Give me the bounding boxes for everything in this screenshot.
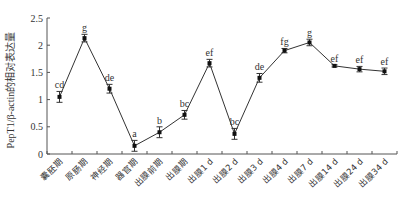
- significance-label: de: [255, 61, 265, 72]
- significance-label: ef: [331, 53, 339, 64]
- x-category-label: 原肠期: [64, 156, 90, 182]
- data-point: [183, 113, 187, 117]
- significance-label: bc: [180, 98, 190, 109]
- data-point: [283, 49, 287, 53]
- x-axis: 囊胚期原肠期神经期器官期出膜前期出膜期出膜1 d出膜2 d出膜3 d出膜4 d出…: [39, 151, 397, 190]
- significance-label: de: [105, 72, 115, 83]
- x-category-label: 出膜2 d: [211, 156, 240, 185]
- significance-label: cd: [55, 79, 64, 90]
- y-tick-label: 1: [38, 94, 43, 105]
- x-category-label: 出膜1 d: [186, 156, 215, 185]
- data-point: [308, 40, 312, 44]
- data-point: [158, 130, 162, 134]
- y-tick-label: 2: [38, 40, 43, 51]
- x-category-label: 神经期: [89, 156, 115, 182]
- significance-label: g: [307, 27, 312, 38]
- x-category-label: 出膜3 d: [236, 156, 265, 185]
- x-category-label: 囊胚期: [39, 156, 65, 182]
- y-axis-title: PepT1/β-actin的相对表达量: [4, 32, 16, 149]
- data-point: [133, 144, 137, 148]
- y-axis: 00.511.522.5: [31, 13, 51, 160]
- data-point: [358, 67, 362, 71]
- significance-label: g: [82, 22, 87, 33]
- significance-labels: cdgdeabbcefbcdefggefefef: [55, 22, 389, 139]
- x-category-label: 出膜4 d: [261, 156, 290, 185]
- data-point: [83, 36, 87, 40]
- y-tick-label: 0: [38, 149, 43, 160]
- significance-label: a: [132, 128, 137, 139]
- data-point: [258, 76, 262, 80]
- significance-label: ef: [356, 54, 364, 65]
- significance-label: ef: [381, 56, 389, 67]
- y-tick-label: 1.5: [31, 67, 44, 78]
- data-point: [208, 61, 212, 65]
- data-point: [233, 132, 237, 136]
- significance-label: b: [157, 115, 162, 126]
- significance-label: bc: [230, 116, 240, 127]
- data-point: [333, 64, 337, 68]
- y-tick-label: 0.5: [31, 121, 44, 132]
- data-point: [108, 87, 112, 91]
- significance-label: fg: [280, 36, 288, 47]
- line-chart: 00.511.522.5 囊胚期原肠期神经期器官期出膜前期出膜期出膜1 d出膜2…: [0, 0, 409, 205]
- data-point: [383, 69, 387, 73]
- data-point: [58, 95, 62, 99]
- significance-label: ef: [206, 47, 214, 58]
- y-tick-label: 2.5: [31, 13, 44, 24]
